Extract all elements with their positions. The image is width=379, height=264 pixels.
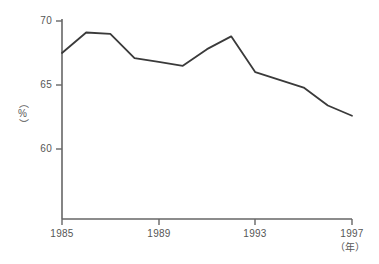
x-axis-title: （年） — [324, 239, 376, 254]
data-series-line — [62, 33, 352, 116]
x-tick-label-1985: 1985 — [42, 228, 82, 239]
line-chart: 70 65 60 1985 1989 1993 1997 （%） （年） — [0, 0, 379, 264]
x-tick-label-1993: 1993 — [235, 228, 275, 239]
x-tick-label-1989: 1989 — [139, 228, 179, 239]
y-axis-title: （%） — [10, 98, 28, 129]
y-tick-label-70: 70 — [30, 15, 52, 26]
y-tick-label-65: 65 — [30, 79, 52, 90]
x-tick-label-1997: 1997 — [332, 228, 372, 239]
chart-canvas — [0, 0, 379, 264]
y-tick-label-60: 60 — [30, 143, 52, 154]
